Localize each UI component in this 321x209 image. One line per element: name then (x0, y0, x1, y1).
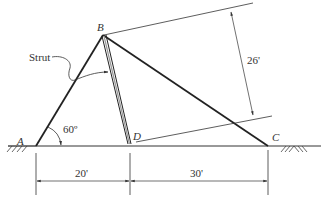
point-d-label: D (132, 130, 141, 142)
angle-arc (48, 127, 61, 145)
dimension-verticals (36, 150, 268, 195)
truss-diagram: 26' Strut 60º B A D C 20' 30' (0, 0, 321, 209)
point-c-label: C (272, 131, 280, 143)
strut-label: Strut (29, 51, 50, 63)
dim-dc-label: 30' (190, 167, 203, 179)
strut-leader (52, 57, 108, 81)
angle-label: 60º (63, 123, 78, 135)
support-c-icon (281, 146, 307, 152)
dim-perp-label: 26' (247, 54, 260, 66)
extension-line-top (104, 3, 253, 35)
point-a-label: A (16, 135, 24, 147)
point-b-label: B (97, 21, 104, 33)
dim-ad-label: 20' (75, 167, 88, 179)
extension-line-bottom (136, 116, 272, 142)
